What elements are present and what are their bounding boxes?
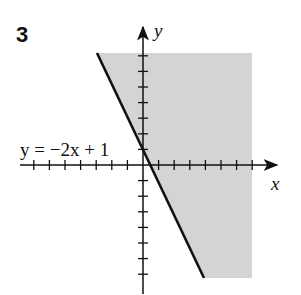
inequality-graph: 3 y x y = −2x + 1 (0, 0, 301, 295)
problem-number: 3 (16, 22, 28, 47)
equation-label: y = −2x + 1 (20, 139, 109, 160)
y-axis-label: y (152, 20, 163, 41)
x-axis-label: x (270, 173, 280, 194)
